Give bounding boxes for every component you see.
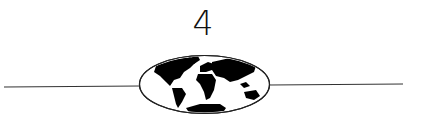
world-map-globe-icon: [140, 56, 270, 115]
right-rule: [269, 84, 403, 85]
left-rule: [4, 86, 140, 87]
chapter-ornament: [0, 0, 422, 131]
